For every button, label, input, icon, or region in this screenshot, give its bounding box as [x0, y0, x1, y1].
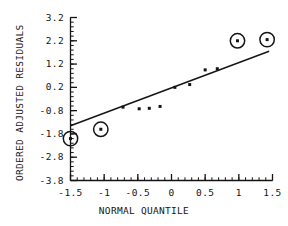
y-tick-label: 3.2	[18, 13, 64, 23]
data-point	[216, 67, 219, 70]
outlier-point	[69, 137, 72, 140]
y-tick-label: -2.8	[18, 152, 64, 162]
x-tick-label: 1.5	[263, 188, 281, 198]
outlier-point	[99, 128, 102, 131]
x-tick-label: 1	[236, 188, 242, 198]
data-point	[188, 83, 191, 86]
x-tick-label: -1.5	[58, 188, 82, 198]
data-point	[148, 107, 151, 110]
data-point	[159, 105, 162, 108]
data-point	[204, 68, 207, 71]
x-tick-label: 0.5	[196, 188, 214, 198]
data-point	[173, 86, 176, 89]
y-tick-label: -0.8	[18, 106, 64, 116]
y-tick-label: 1.2	[18, 59, 64, 69]
x-tick-label: 0	[168, 188, 174, 198]
data-point	[122, 106, 125, 109]
x-tick-label: -0.5	[126, 188, 150, 198]
fitted-reference-line	[71, 51, 270, 126]
x-axis-title: NORMAL QUANTILE	[0, 206, 288, 216]
outlier-point	[266, 38, 269, 41]
y-tick-label: -1.8	[18, 129, 64, 139]
y-tick-label: 2.2	[18, 36, 64, 46]
data-point	[138, 107, 141, 110]
outlier-point	[236, 39, 239, 42]
y-tick-label: 0.2	[18, 83, 64, 93]
x-tick-label: -1	[98, 188, 110, 198]
normal-quantile-plot: ORDERED ADJUSTED RESIDUALS NORMAL QUANTI…	[0, 0, 288, 226]
y-tick-label: -3.8	[18, 176, 64, 186]
